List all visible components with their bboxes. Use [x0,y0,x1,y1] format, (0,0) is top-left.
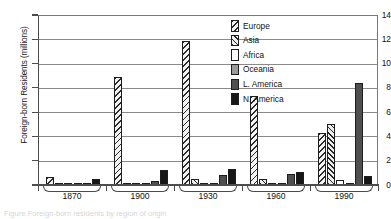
bar-europe-1990 [318,133,326,185]
legend-item-africa[interactable]: Africa [231,48,309,63]
legend-item-europe[interactable]: Europe [231,19,309,34]
legend-label: Asia [243,35,259,45]
bar-l-america-1990 [355,83,363,185]
plot-area [38,15,378,185]
legend-swatch-icon [231,93,239,104]
x-axis-tick [38,184,39,191]
legend-item-asia[interactable]: Asia [231,34,309,49]
legend-label: N. America [243,94,284,104]
legend-label: Europe [243,21,270,31]
bar-europe-1900 [114,77,122,185]
x-axis-label-1900: 1900 [106,191,174,201]
legend-swatch-icon [231,64,239,75]
bar-n-america-1930 [228,169,236,185]
x-axis-tick [310,184,311,191]
x-axis-tick [106,184,107,191]
x-axis-tick [174,184,175,191]
legend-label: L. America [243,79,282,89]
figure-caption: Figure Foreign-born residents by region … [4,209,334,218]
bar-n-america-1960 [296,172,304,185]
bar-europe-1930 [182,41,190,185]
legend: EuropeAsiaAfricaOceaniaL. AmericaN. Amer… [231,19,309,107]
x-axis-tick [242,184,243,191]
chart-figure: Foreign-born Residents (millions) 024681… [0,0,391,219]
legend-item-n-america[interactable]: N. America [231,92,309,107]
bar-europe-1960 [250,96,258,185]
x-axis-label-1870: 1870 [38,191,106,201]
legend-swatch-icon [231,35,239,46]
bar-asia-1990 [327,124,335,185]
legend-swatch-icon [231,49,239,60]
x-axis-label-1990: 1990 [310,191,378,201]
y-axis-title: Foreign-born Residents (millions) [20,10,32,160]
x-axis-label-1960: 1960 [242,191,310,201]
legend-label: Africa [243,50,264,60]
bar-n-america-1900 [160,170,168,185]
legend-label: Oceania [243,64,274,74]
x-axis-label-1930: 1930 [174,191,242,201]
legend-item-oceania[interactable]: Oceania [231,63,309,78]
legend-item-l-america[interactable]: L. America [231,77,309,92]
legend-swatch-icon [231,79,239,90]
legend-swatch-icon [231,20,239,31]
x-axis-tick [378,184,379,191]
